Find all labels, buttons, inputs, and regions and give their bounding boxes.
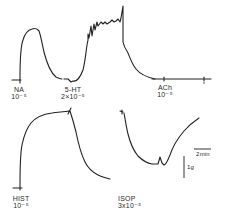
label-hist-drug: HIST [12,195,30,202]
label-5ht-conc: 2×10⁻⁵ [60,93,86,100]
label-na-drug: NA [11,86,27,93]
label-hist: HIST 10⁻⁵ [12,195,30,209]
label-isop-conc: 3x10⁻⁵ [118,202,144,209]
traces-canvas [0,0,225,216]
label-isop: ISOP 3x10⁻⁵ [118,195,144,209]
trace-isop [120,110,199,165]
label-na: NA 10⁻⁵ [11,86,27,100]
label-5ht-drug: 5-HT [60,86,86,93]
label-ach: ACh 10⁻⁵ [157,84,173,98]
label-isop-drug: ISOP [118,195,144,202]
time-scale-label: 2min [194,151,212,158]
tension-recordings-figure: NA 10⁻⁵ 5-HT 2×10⁻⁵ ACh 10⁻⁵ HIST 10⁻⁵ I… [0,0,225,216]
force-scale-label: 1g [187,164,195,171]
label-ach-drug: ACh [157,84,173,91]
label-ach-conc: 10⁻⁵ [157,91,173,98]
label-hist-conc: 10⁻⁵ [12,202,30,209]
trace-hist [13,108,110,190]
label-na-conc: 10⁻⁵ [11,93,27,100]
trace-ach [152,77,211,84]
trace-na [12,29,62,83]
trace-5ht [64,6,155,82]
label-5ht: 5-HT 2×10⁻⁵ [60,86,86,100]
